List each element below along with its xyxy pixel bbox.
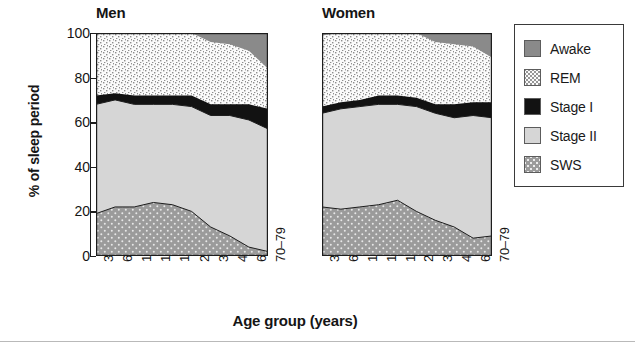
y-tick-40: 40 [56,162,90,172]
legend-item-stage_i[interactable]: Stage I [524,92,623,121]
figure-canvas: Men Women % of sleep period Age group (y… [0,0,635,352]
legend-item-stage_ii[interactable]: Stage II [524,121,623,150]
legend-item-rem[interactable]: REM [524,63,623,92]
x-tick-label: 70–79 [273,227,288,262]
legend-swatch-sws-icon [524,156,541,173]
legend-item-awake[interactable]: Awake [524,34,623,63]
legend-swatch-stage_i-icon [524,98,541,115]
y-axis-title: % of sleep period [26,46,42,236]
y-tick-0: 0 [56,251,90,261]
legend-swatch-awake-icon [524,40,541,57]
y-axis-line [90,33,91,256]
x-tick-label: 70–79 [497,227,512,262]
panel-title-women: Women [322,4,375,21]
legend-label: Stage II [550,128,597,144]
y-tick-100: 100 [56,28,90,38]
panel-title-men: Men [96,4,125,21]
legend-item-sws[interactable]: SWS [524,150,623,179]
legend-label: Stage I [550,99,593,115]
legend-label: Awake [550,41,591,57]
y-axis-tick-labels: 020406080100 [52,0,90,352]
x-axis-title: Age group (years) [120,312,470,329]
footer-divider [0,341,635,342]
y-tick-mark [90,256,96,257]
y-tick-60: 60 [56,117,90,127]
legend-label: REM [550,70,581,86]
y-tick-20: 20 [56,206,90,216]
area-chart-women [322,33,492,256]
y-tick-80: 80 [56,73,90,83]
legend-swatch-stage_ii-icon [524,127,541,144]
legend-label: SWS [550,157,581,173]
legend-swatch-rem-icon [524,69,541,86]
area-chart-men [96,33,268,256]
chart-legend: AwakeREMStage IStage IISWS [514,24,624,187]
